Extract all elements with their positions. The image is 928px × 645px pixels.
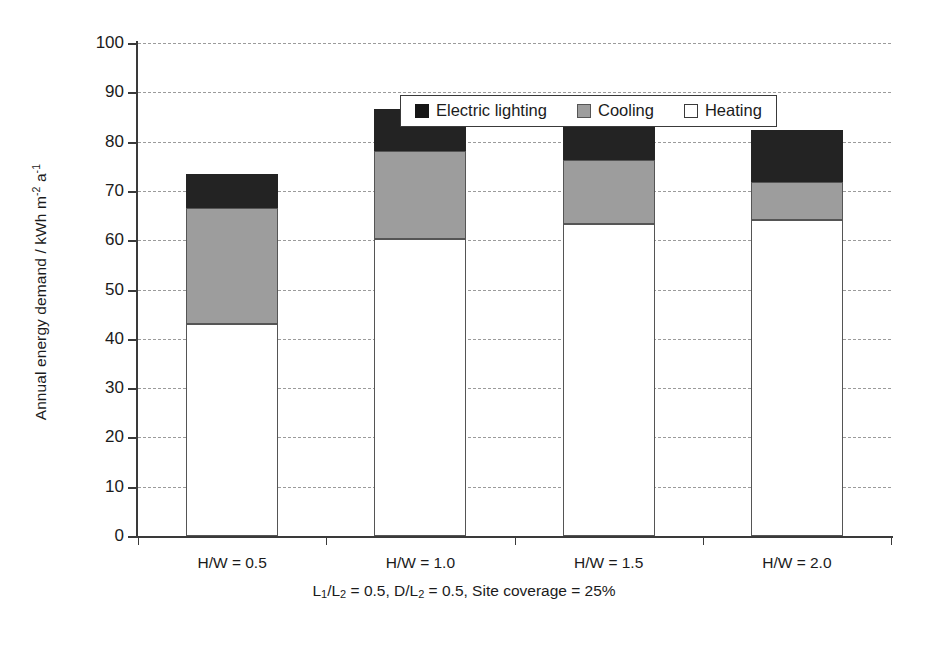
legend-item-electric-lighting[interactable]: Electric lighting bbox=[415, 101, 547, 120]
y-tick-label: 40 bbox=[105, 329, 124, 349]
y-tick-label: 80 bbox=[105, 132, 124, 152]
x-axis-caption: L1/L2 = 0.5, D/L2 = 0.5, Site coverage =… bbox=[0, 582, 928, 600]
y-axis-title-exponent-area: -2 bbox=[30, 187, 42, 197]
gridline bbox=[138, 92, 891, 93]
bar-segment-cooling[interactable] bbox=[563, 160, 655, 224]
y-tick-mark bbox=[128, 43, 137, 45]
bar-segment-cooling[interactable] bbox=[374, 151, 466, 238]
bar-segment-electric-lighting[interactable] bbox=[751, 130, 843, 182]
legend-label: Electric lighting bbox=[436, 101, 547, 120]
bar-segment-heating[interactable] bbox=[751, 220, 843, 536]
y-tick-label: 70 bbox=[105, 181, 124, 201]
y-tick-label: 20 bbox=[105, 427, 124, 447]
stacked-bar[interactable] bbox=[751, 130, 843, 536]
gridline bbox=[138, 43, 891, 44]
x-axis-caption-p1: L bbox=[312, 582, 321, 599]
bar-segment-electric-lighting[interactable] bbox=[186, 174, 278, 209]
legend-item-heating[interactable]: Heating bbox=[684, 101, 762, 120]
x-axis-caption-p4: = 0.5, Site coverage = 25% bbox=[424, 582, 615, 599]
stacked-bar[interactable] bbox=[186, 174, 278, 536]
chart-figure: Annual energy demand / kWh m-2 a-1 01020… bbox=[0, 0, 928, 645]
x-tick-mark bbox=[326, 536, 327, 545]
y-tick-label: 90 bbox=[105, 82, 124, 102]
x-tick-label-2: H/W = 1.5 bbox=[574, 554, 643, 572]
y-tick-mark bbox=[128, 290, 137, 292]
heating-swatch-icon bbox=[684, 104, 698, 118]
y-tick-mark bbox=[128, 339, 137, 341]
x-tick-label-1: H/W = 1.0 bbox=[386, 554, 455, 572]
y-tick-label: 50 bbox=[105, 280, 124, 300]
x-axis-caption-p2: /L bbox=[327, 582, 340, 599]
cooling-swatch-icon bbox=[577, 104, 591, 118]
y-tick-label: 10 bbox=[105, 477, 124, 497]
bar-segment-heating[interactable] bbox=[563, 224, 655, 536]
x-tick-mark bbox=[891, 536, 892, 545]
chart-legend: Electric lightingCoolingHeating bbox=[400, 95, 777, 127]
y-axis-title-exponent-annum: -1 bbox=[30, 164, 42, 174]
stacked-bar[interactable] bbox=[563, 115, 655, 537]
bar-segment-cooling[interactable] bbox=[751, 182, 843, 220]
lighting-swatch-icon bbox=[415, 104, 429, 118]
x-tick-label-0: H/W = 0.5 bbox=[197, 554, 266, 572]
y-tick-mark bbox=[128, 142, 137, 144]
bar-segment-heating[interactable] bbox=[374, 239, 466, 536]
y-tick-mark bbox=[128, 437, 137, 439]
legend-item-cooling[interactable]: Cooling bbox=[577, 101, 654, 120]
bar-segment-cooling[interactable] bbox=[186, 208, 278, 324]
x-tick-label-3: H/W = 2.0 bbox=[762, 554, 831, 572]
legend-label: Heating bbox=[705, 101, 762, 120]
plot-area: 0102030405060708090100 H/W = 0.5H/W = 1.… bbox=[138, 43, 891, 536]
x-tick-mark bbox=[138, 536, 139, 545]
y-tick-mark bbox=[128, 388, 137, 390]
y-tick-mark bbox=[128, 487, 137, 489]
y-tick-mark bbox=[128, 92, 137, 94]
y-tick-label: 100 bbox=[96, 33, 124, 53]
x-tick-mark bbox=[703, 536, 704, 545]
y-tick-mark bbox=[128, 240, 137, 242]
y-tick-label: 30 bbox=[105, 378, 124, 398]
legend-label: Cooling bbox=[598, 101, 654, 120]
x-tick-mark bbox=[515, 536, 516, 545]
stacked-bar[interactable] bbox=[374, 109, 466, 536]
y-axis-title-mid: a bbox=[32, 173, 49, 186]
y-tick-mark bbox=[128, 536, 137, 538]
y-tick-label: 60 bbox=[105, 230, 124, 250]
bar-segment-heating[interactable] bbox=[186, 324, 278, 536]
y-tick-label: 0 bbox=[115, 526, 124, 546]
x-axis-caption-p3: = 0.5, D/L bbox=[346, 582, 418, 599]
y-tick-mark bbox=[128, 191, 137, 193]
y-axis-title: Annual energy demand / kWh m-2 a-1 bbox=[30, 82, 50, 502]
y-axis-title-text: Annual energy demand / kWh m bbox=[32, 196, 49, 420]
